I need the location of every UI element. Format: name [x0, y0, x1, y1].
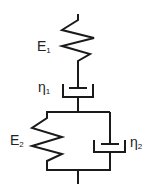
label-e2: E2: [10, 133, 24, 149]
label-eta1-symbol: η: [38, 79, 46, 95]
rheological-diagram: [0, 0, 153, 190]
label-eta2: η2: [130, 135, 142, 151]
label-e2-subscript: 2: [19, 140, 23, 149]
label-eta1: η1: [38, 80, 50, 96]
dashpot-eta1: [63, 64, 93, 112]
label-e2-symbol: E: [10, 132, 19, 148]
spring-e2: [32, 112, 62, 170]
label-e1-subscript: 1: [46, 46, 50, 55]
label-eta2-symbol: η: [130, 134, 138, 150]
spring-e1: [62, 14, 94, 64]
label-e1: E1: [37, 39, 51, 55]
label-eta1-subscript: 1: [46, 87, 50, 96]
dashpot-eta2: [94, 112, 125, 170]
label-e1-symbol: E: [37, 38, 46, 54]
label-eta2-subscript: 2: [138, 142, 142, 151]
